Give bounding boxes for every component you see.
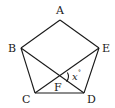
vertex-label-d: D [87,93,96,106]
vertex-label-b: B [8,42,16,55]
diagonal-ce [35,48,99,93]
vertex-label-e: E [102,42,110,55]
edge-ab [21,20,60,48]
point-label-f: F [54,81,62,94]
angle-degree-symbol: ° [78,68,81,75]
pentagon-diagram: A B E C D F x ° [0,0,115,108]
edge-de [84,48,99,93]
edge-bc [21,48,35,93]
vertex-label-c: C [22,93,30,106]
edge-ae [60,20,99,48]
vertex-label-a: A [55,4,65,17]
